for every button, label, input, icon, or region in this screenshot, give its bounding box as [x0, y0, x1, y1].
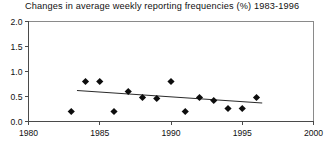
x-tick-label: 1985 — [90, 128, 109, 138]
y-tick-label: 2.0 — [11, 17, 23, 27]
data-point-marker — [239, 105, 246, 112]
scatter-plot: 0.00.51.01.52.0 19801985199019952000 — [0, 0, 329, 142]
x-tick-label: 1980 — [19, 128, 38, 138]
data-point-marker — [82, 78, 89, 85]
x-axis-ticks: 19801985199019952000 — [19, 122, 323, 138]
y-tick-label: 1.5 — [11, 42, 23, 52]
data-point-marker — [224, 105, 231, 112]
data-point-marker — [210, 97, 217, 104]
data-point-marker — [182, 108, 189, 115]
trend-line — [77, 91, 262, 104]
data-point-marker — [96, 78, 103, 85]
x-tick-label: 1990 — [161, 128, 180, 138]
data-point-marker — [167, 78, 174, 85]
data-point-marker — [253, 94, 260, 101]
y-axis-ticks: 0.00.51.01.52.0 — [11, 17, 29, 127]
y-tick-label: 0.0 — [11, 117, 23, 127]
x-tick-label: 2000 — [304, 128, 323, 138]
chart-container: Changes in average weekly reporting freq… — [0, 0, 329, 142]
data-point-marker — [110, 108, 117, 115]
y-tick-label: 0.5 — [11, 92, 23, 102]
x-tick-label: 1995 — [233, 128, 252, 138]
trend-line-segment — [77, 91, 262, 104]
plot-frame — [29, 22, 314, 122]
data-point-marker — [196, 94, 203, 101]
data-point-marker — [68, 108, 75, 115]
y-tick-label: 1.0 — [11, 67, 23, 77]
